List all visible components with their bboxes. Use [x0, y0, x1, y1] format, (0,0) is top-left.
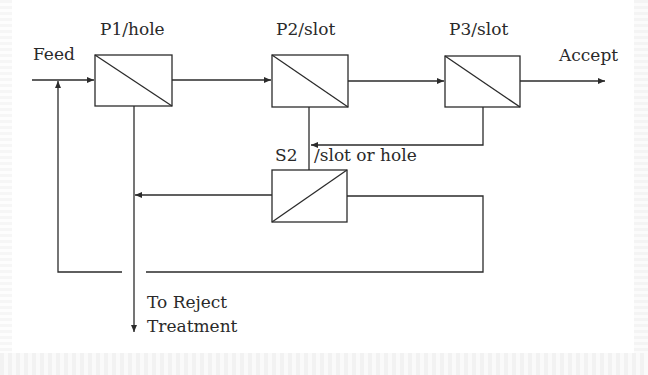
- reject-label-line2: Treatment: [147, 316, 237, 336]
- screening-flow-diagram: Feed P1/hole P2/slot P3/slot Accept S2 /…: [0, 0, 648, 375]
- feed-label: Feed: [33, 44, 75, 64]
- p1-label: P1/hole: [100, 19, 165, 39]
- screen-p2-box: [272, 55, 348, 107]
- accept-label: Accept: [559, 45, 618, 65]
- screen-p3-box: [445, 56, 520, 107]
- reject-label-line1: To Reject: [147, 292, 227, 312]
- p2-label: P2/slot: [276, 19, 335, 39]
- diagram-lines: [0, 0, 648, 375]
- screen-p1-box: [95, 55, 172, 106]
- p3-label: P3/slot: [449, 19, 508, 39]
- s2-label: S2: [275, 145, 297, 165]
- screen-s2-box: [272, 170, 347, 222]
- s2-type-label: /slot or hole: [314, 145, 417, 165]
